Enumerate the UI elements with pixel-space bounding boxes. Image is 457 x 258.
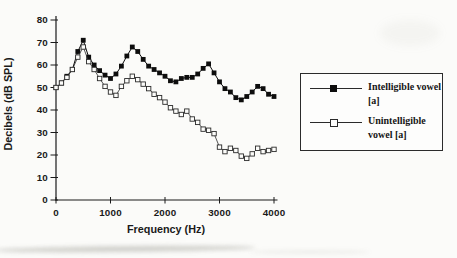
filled-square-data-point (114, 72, 119, 77)
open-square-data-point (65, 75, 69, 79)
y-tick-label: 80 (37, 14, 49, 25)
filled-square-data-point (108, 76, 113, 81)
y-tick-label: 40 (37, 104, 49, 115)
y-tick-label: 10 (37, 172, 49, 183)
filled-square-data-point (212, 70, 217, 75)
filled-square-data-point (146, 64, 151, 69)
open-square-data-point (212, 131, 216, 135)
open-square-data-point (114, 93, 118, 97)
filled-square-data-point (233, 95, 238, 100)
filled-square-data-point (261, 86, 266, 91)
open-square-data-point (92, 67, 96, 71)
open-square-data-point (152, 92, 156, 96)
open-square-data-point (168, 106, 172, 110)
filled-square-data-point (244, 94, 249, 99)
open-square-data-point (141, 82, 145, 86)
filled-square-data-point (228, 90, 233, 95)
open-square-data-point (125, 79, 129, 83)
legend-marker-intelligible (310, 82, 362, 96)
open-square-data-point (234, 148, 238, 152)
legend-label-line: Intelligible vowel (368, 80, 441, 94)
filled-square-data-point (163, 74, 168, 79)
x-tick-label: 3000 (208, 207, 231, 218)
open-square-data-point (223, 149, 227, 153)
open-square-data-point (255, 146, 259, 150)
filled-square-data-point (168, 78, 173, 83)
open-square-data-point (201, 127, 205, 131)
series-line-intelligible (56, 40, 274, 100)
filled-square-data-point (103, 73, 108, 78)
legend-label-line: [a] (368, 94, 441, 108)
open-square-data-point (179, 112, 183, 116)
legend-box: Intelligible vowel [a] Unintelligible vo… (300, 73, 443, 151)
x-tick-label: 2000 (154, 207, 177, 218)
legend-item-unintelligible: Unintelligible vowel [a] (310, 114, 440, 142)
open-square-data-point (250, 152, 254, 156)
y-tick-label: 0 (42, 194, 48, 205)
y-axis-title: Decibels (dB SPL) (2, 57, 14, 150)
open-square-data-point (87, 59, 91, 63)
y-tick-label: 70 (37, 37, 49, 48)
filled-square-data-point (130, 45, 135, 50)
open-square-data-point (103, 84, 107, 88)
open-square-data-point (119, 84, 123, 88)
open-square-data-point (146, 86, 150, 90)
open-square-data-point (108, 90, 112, 94)
filled-square-data-point (201, 66, 206, 71)
filled-square-data-point (179, 76, 184, 81)
open-square-data-point (81, 45, 85, 49)
legend-label-intelligible: Intelligible vowel [a] (368, 80, 441, 108)
spectrum-figure: 0102030405060708001000200030004000Freque… (0, 0, 457, 258)
filled-square-data-point (97, 68, 102, 73)
filled-square-data-point (119, 64, 124, 69)
open-square-data-point (70, 67, 74, 71)
filled-square-data-point (239, 97, 244, 102)
open-square-data-point (245, 156, 249, 160)
open-square-data-point (157, 95, 161, 99)
legend-label-unintelligible: Unintelligible vowel [a] (368, 114, 426, 142)
legend-marker-unintelligible (310, 116, 362, 130)
filled-square-data-point (195, 72, 200, 77)
y-tick-label: 60 (37, 59, 49, 70)
filled-square-data-point (223, 86, 228, 91)
open-square-data-point (54, 85, 58, 89)
x-tick-label: 1000 (99, 207, 122, 218)
x-tick-label: 4000 (263, 207, 286, 218)
open-square-data-point (59, 81, 63, 85)
open-square-data-point (239, 154, 243, 158)
open-square-data-point (190, 117, 194, 121)
y-tick-label: 30 (37, 127, 49, 138)
filled-square-data-point (157, 70, 162, 75)
open-square-data-point (272, 147, 276, 151)
filled-square-data-point (266, 92, 271, 97)
open-square-data-point (196, 120, 200, 124)
open-square-marker-icon (330, 119, 338, 127)
open-square-data-point (163, 100, 167, 104)
filled-square-data-point (152, 67, 157, 72)
legend-item-intelligible: Intelligible vowel [a] (310, 80, 440, 108)
open-square-data-point (217, 145, 221, 149)
filled-square-data-point (206, 61, 211, 66)
open-square-data-point (206, 128, 210, 132)
filled-square-data-point (255, 84, 260, 89)
filled-square-data-point (81, 38, 86, 43)
filled-square-data-point (124, 54, 129, 59)
open-square-data-point (185, 109, 189, 113)
open-square-data-point (97, 76, 101, 80)
open-square-data-point (261, 149, 265, 153)
filled-square-data-point (190, 75, 195, 80)
filled-square-data-point (250, 90, 255, 95)
open-square-data-point (136, 77, 140, 81)
open-square-data-point (266, 148, 270, 152)
x-tick-label: 0 (53, 207, 59, 218)
filled-square-data-point (217, 79, 222, 84)
y-tick-label: 20 (37, 149, 49, 160)
filled-square-data-point (184, 75, 189, 80)
filled-square-data-point (272, 94, 277, 99)
open-square-data-point (130, 74, 134, 78)
x-axis-title: Frequency (Hz) (127, 223, 205, 235)
filled-square-data-point (135, 49, 140, 54)
open-square-data-point (76, 55, 80, 59)
open-square-data-point (174, 109, 178, 113)
open-square-data-point (228, 146, 232, 150)
